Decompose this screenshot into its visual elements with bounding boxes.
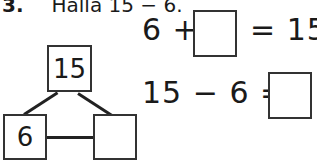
equation-1-right: = 15 (250, 12, 317, 47)
bond-whole-box: 15 (47, 45, 92, 92)
connector-whole-to-left (23, 91, 58, 115)
bond-part-known-box: 6 (3, 114, 47, 160)
equation-2-left: 15 − 6 = (142, 75, 286, 110)
bond-part-unknown-box[interactable] (93, 114, 137, 160)
connector-whole-to-right (77, 92, 112, 116)
equation-1-answer-box[interactable] (193, 10, 237, 57)
bond-part-known-value: 6 (17, 122, 34, 152)
bond-whole-value: 15 (53, 54, 86, 84)
problem-number: 3. (2, 0, 24, 17)
equation-2-answer-box[interactable] (268, 72, 312, 119)
connector-left-to-right (46, 136, 94, 139)
equation-1-left: 6 + (142, 12, 199, 47)
